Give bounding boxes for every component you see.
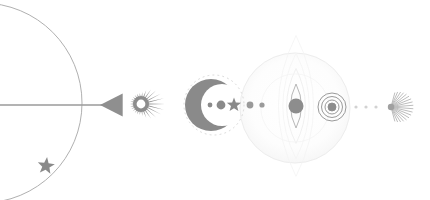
alignment-dot-c xyxy=(247,102,254,109)
crescent-moon-icon xyxy=(0,0,430,200)
diagram-svg xyxy=(0,0,430,200)
alignment-dot-d xyxy=(259,102,264,107)
alignment-dot-small xyxy=(208,103,213,108)
celestial-diagram-canvas: Celestial Alignment Diagram xyxy=(0,0,430,200)
alignment-dot-large xyxy=(217,101,226,110)
